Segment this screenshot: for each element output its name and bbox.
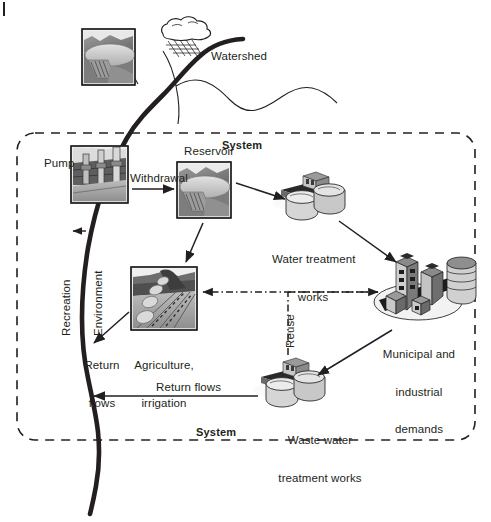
label-pump: Pump (44, 157, 74, 170)
label-municipal-line1: Municipal and (377, 348, 461, 361)
label-water-treatment-works: Water treatment works (272, 228, 354, 328)
label-return-flows-bottom: Return flows (156, 381, 221, 394)
pump-station-photo-icon (71, 146, 128, 203)
label-municipal-line3: demands (377, 423, 461, 436)
label-water-treatment-line1: Water treatment (272, 253, 354, 266)
label-waste-water-treatment-works: Waste water treatment works (271, 409, 369, 509)
label-agriculture-line1: Agriculture, (131, 359, 197, 372)
treatment-tanks-icon-waste (253, 358, 325, 407)
label-watershed: Watershed (211, 50, 267, 63)
label-reservoir: Reservoir (184, 145, 234, 158)
treatment-tanks-icon-water (273, 172, 345, 220)
city-buildings-icon (374, 253, 476, 320)
label-system-bottom: System (196, 426, 236, 439)
arrow-reservoir-to-agriculture (186, 223, 203, 262)
label-return-flows-left: Return flows (78, 334, 126, 434)
arrow-reservoir-to-wtw (236, 183, 285, 199)
label-water-treatment-line2: works (272, 291, 354, 304)
figure-canvas: Watershed System System Pump Withdrawal … (0, 0, 491, 522)
label-municipal-line2: industrial (377, 386, 461, 399)
label-waste-water-line2: treatment works (271, 472, 369, 485)
label-recreation: Recreation (60, 279, 73, 336)
irrigated-field-photo-icon (131, 267, 197, 330)
label-withdrawal: Withdrawal (130, 172, 188, 185)
label-return-flows-left-line2: flows (78, 397, 126, 410)
label-reuse: Reuse (284, 314, 297, 348)
label-return-flows-left-line1: Return (78, 359, 126, 372)
label-environment: Environment (92, 270, 105, 336)
label-agriculture-line2: irrigation (131, 397, 197, 410)
reservoir-dam-photo-icon-store (177, 162, 231, 218)
label-waste-water-line1: Waste water (271, 434, 369, 447)
label-municipal-industrial-demands: Municipal and industrial demands (377, 323, 461, 461)
reservoir-dam-photo-icon-source (82, 29, 135, 85)
